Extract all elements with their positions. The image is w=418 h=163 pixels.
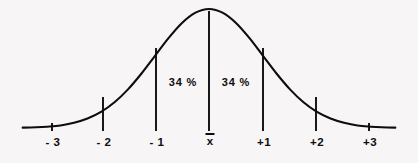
axis-tick-label-mean: x: [206, 133, 215, 147]
axis-tick-label-minus-3: - 3: [46, 137, 61, 149]
axis-tick-label-minus-2: - 2: [97, 137, 112, 149]
mean-x-glyph: x: [206, 136, 215, 148]
annotation-left-34-percent: 34 %: [169, 77, 197, 88]
axis-tick-label-plus-2: +2: [310, 137, 324, 149]
normal-distribution-figure: - 3 - 2 - 1 x +1 +2 +3 34 % 34 %: [0, 0, 418, 163]
axis-tick-label-minus-1: - 1: [150, 137, 165, 149]
axis-tick-label-plus-3: +3: [363, 137, 377, 149]
annotation-right-34-percent: 34 %: [222, 77, 250, 88]
axis-tick-label-plus-1: +1: [257, 137, 271, 149]
